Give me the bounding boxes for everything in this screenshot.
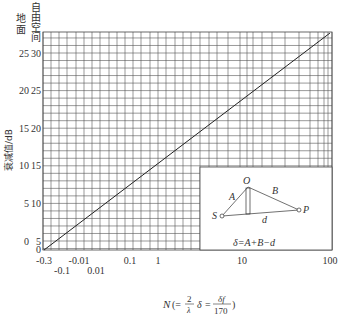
- y-header-free-space: 自由空间: [31, 1, 41, 43]
- y-tick-free-space: 25: [31, 85, 41, 96]
- x-tick: 100: [323, 255, 338, 266]
- svg-text:地: 地: [16, 12, 26, 24]
- y-tick-ground: 25: [19, 48, 29, 59]
- x-tick: 0.1: [124, 255, 137, 266]
- y-header-ground: 地面: [16, 12, 26, 35]
- attenuation-chart: O S P A B d δ=A+B−d 地面 自由空间 501051510201…: [0, 0, 345, 322]
- svg-text:=: =: [205, 299, 211, 310]
- y-tick-free-space: 20: [31, 123, 41, 134]
- svg-text:衰减值/dB: 衰减值/dB: [3, 129, 14, 171]
- x-tick: 10: [237, 255, 247, 266]
- label-S: S: [212, 210, 217, 221]
- y-axis-label: 衰减值/dB: [3, 129, 14, 171]
- svg-text:N: N: [162, 298, 171, 310]
- svg-text:δf: δf: [218, 294, 226, 304]
- y-tick-free-space: 30: [31, 48, 41, 59]
- y-tick-ground: 15: [19, 123, 29, 134]
- label-B: B: [272, 185, 278, 196]
- x-tick: -0.3: [36, 255, 52, 266]
- x-tick: -0.1: [54, 265, 70, 276]
- y-tick-labels: 5010515102015252030250: [19, 48, 41, 256]
- x-tick: 1: [156, 255, 161, 266]
- origin-label: 0: [36, 244, 41, 255]
- svg-text:面: 面: [16, 24, 26, 35]
- y-tick-free-space: 15: [31, 160, 41, 171]
- y-tick-ground: 5: [24, 198, 29, 209]
- svg-text:间: 间: [31, 31, 41, 43]
- source-point: [220, 214, 224, 218]
- svg-text:2: 2: [187, 294, 192, 304]
- inset-formula: δ=A+B−d: [233, 237, 276, 248]
- receiver-point: [297, 208, 301, 212]
- svg-text:λ: λ: [186, 306, 191, 315]
- barrier: [246, 188, 250, 214]
- label-O: O: [243, 175, 250, 186]
- y-tick-free-space: 10: [31, 198, 41, 209]
- x-tick: 0.01: [87, 265, 105, 276]
- label-P: P: [302, 204, 309, 215]
- label-A: A: [228, 191, 236, 202]
- inset-diagram: O S P A B d δ=A+B−d: [200, 167, 332, 250]
- y-tick-ground: 0: [24, 236, 29, 247]
- y-tick-ground: 20: [19, 85, 29, 96]
- x-axis-label: N (= 2 λ δ = δf 170 ): [162, 294, 235, 316]
- y-tick-ground: 10: [19, 160, 29, 171]
- svg-text:): ): [232, 299, 235, 311]
- svg-text:(=: (=: [172, 299, 181, 311]
- svg-text:170: 170: [214, 306, 228, 316]
- svg-text:δ: δ: [197, 299, 202, 310]
- x-tick-labels: -0.3-0.010.1110100-0.10.01: [36, 255, 337, 276]
